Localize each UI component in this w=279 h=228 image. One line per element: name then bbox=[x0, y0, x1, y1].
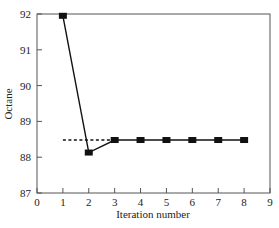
x-tick-label: 3 bbox=[112, 196, 118, 208]
x-tick-label: 8 bbox=[241, 196, 247, 208]
x-tick-label: 1 bbox=[60, 196, 66, 208]
square-marker-icon bbox=[85, 150, 93, 156]
x-axis-label: Iteration number bbox=[116, 208, 190, 220]
square-marker-icon bbox=[214, 137, 222, 143]
octane-line bbox=[63, 16, 244, 153]
x-tick-label: 2 bbox=[86, 196, 92, 208]
y-tick-label: 90 bbox=[20, 80, 32, 92]
y-tick-label: 87 bbox=[20, 187, 32, 199]
x-tick-label: 7 bbox=[215, 196, 221, 208]
y-tick-label: 88 bbox=[20, 151, 32, 163]
data-series bbox=[59, 13, 248, 156]
plot-frame bbox=[37, 14, 270, 193]
square-marker-icon bbox=[59, 13, 67, 19]
x-tick-label: 9 bbox=[267, 196, 273, 208]
x-tick-label: 4 bbox=[138, 196, 144, 208]
square-marker-icon bbox=[188, 137, 196, 143]
square-marker-icon bbox=[137, 137, 145, 143]
octane-chart: 878889909192 0123456789 Iteration number… bbox=[0, 0, 279, 228]
x-tick-label: 0 bbox=[34, 196, 40, 208]
x-tick-label: 5 bbox=[164, 196, 170, 208]
square-marker-icon bbox=[162, 137, 170, 143]
y-axis-label: Octane bbox=[2, 88, 14, 119]
y-axis: 878889909192 bbox=[20, 8, 42, 199]
x-axis: 0123456789 bbox=[34, 188, 273, 208]
plot-border bbox=[37, 14, 270, 193]
square-marker-icon bbox=[240, 137, 248, 143]
y-tick-label: 92 bbox=[20, 8, 31, 20]
y-tick-label: 89 bbox=[20, 115, 32, 127]
y-tick-label: 91 bbox=[20, 44, 31, 56]
x-tick-label: 6 bbox=[190, 196, 196, 208]
